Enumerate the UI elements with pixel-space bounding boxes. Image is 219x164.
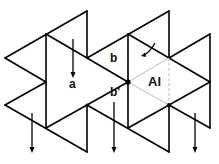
label-al: Al <box>148 74 161 89</box>
structure-diagram: a b b' Al <box>0 0 219 164</box>
vertex-dot <box>125 79 130 84</box>
vertex-dot <box>86 104 89 107</box>
arrow-down-icon <box>71 39 76 78</box>
triangle-edges <box>5 11 210 152</box>
vertex-dot <box>167 103 171 107</box>
label-a: a <box>69 77 76 91</box>
arrow-down-icon <box>112 102 117 153</box>
label-b-prime: b' <box>110 85 120 99</box>
label-b: b <box>110 51 117 65</box>
